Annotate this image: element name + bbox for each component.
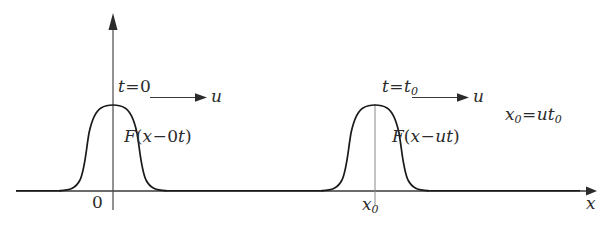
velocity-arrow-left-head	[195, 93, 207, 102]
function-label-left: F(x−0t)	[124, 128, 192, 145]
time-label-left: t=0	[118, 78, 151, 95]
origin-label-text: 0	[92, 192, 103, 212]
velocity-arrow-right	[412, 93, 469, 102]
relation-lhs: x	[505, 104, 515, 124]
relation-eq: =	[522, 104, 537, 124]
relation-rhs-sub: 0	[555, 113, 562, 126]
y-axis	[109, 13, 118, 210]
function-label-right-minus: −	[420, 126, 435, 146]
y-axis-arrowhead	[109, 13, 118, 30]
function-label-right: F(x−ut)	[392, 128, 460, 145]
relation-lhs-sub: 0	[515, 113, 522, 126]
x0-tick-label-sub: 0	[372, 203, 379, 216]
function-label-right-f: F	[392, 126, 404, 146]
function-label-left-x: x	[142, 126, 152, 146]
x0-tick-label: x0	[362, 196, 379, 215]
origin-label: 0	[92, 194, 103, 211]
velocity-arrow-left	[150, 93, 207, 102]
velocity-label-right-text: u	[473, 86, 484, 106]
function-label-right-x: x	[410, 126, 420, 146]
time-label-right-value: t	[404, 76, 411, 96]
function-label-left-close: )	[185, 126, 192, 146]
time-label-right: t=t0	[382, 78, 418, 97]
time-label-right-eq: =	[389, 76, 404, 96]
function-label-left-t: t	[178, 126, 185, 146]
function-label-right-close: )	[453, 126, 460, 146]
time-label-right-sub: 0	[411, 85, 418, 98]
wave-pulse-figure: t=0 F(x−0t) u 0 t=t0 F(x−ut) u x0 x0=ut0…	[0, 0, 608, 252]
time-label-left-eq: =	[125, 76, 140, 96]
x0-tick-label-x: x	[362, 194, 372, 214]
velocity-arrow-right-head	[457, 93, 469, 102]
relation-rhs-t: t	[548, 104, 555, 124]
function-label-left-f: F	[124, 126, 136, 146]
velocity-label-right: u	[473, 88, 484, 105]
relation-label: x0=ut0	[505, 106, 562, 125]
function-label-left-minus: −	[152, 126, 167, 146]
function-label-left-coef: 0	[167, 126, 178, 146]
x-axis-label-text: x	[586, 193, 596, 213]
x-axis-label: x	[586, 195, 596, 212]
time-label-left-value: 0	[140, 76, 151, 96]
velocity-label-left-text: u	[211, 86, 222, 106]
velocity-label-left: u	[211, 88, 222, 105]
function-label-right-u: u	[435, 126, 446, 146]
relation-rhs-u: u	[537, 104, 548, 124]
time-label-left-t: t	[118, 76, 125, 96]
time-label-right-t: t	[382, 76, 389, 96]
